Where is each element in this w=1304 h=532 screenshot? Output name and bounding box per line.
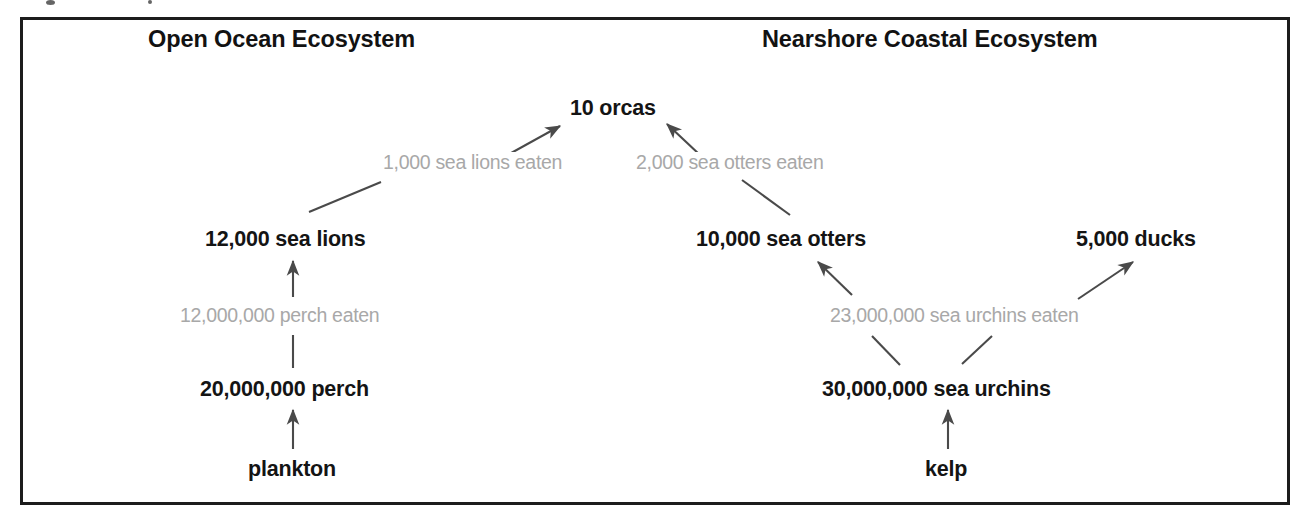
node-ducks: 5,000 ducks (1076, 229, 1196, 251)
node-sea-urchins: 30,000,000 sea urchins (822, 379, 1051, 401)
clipped-caption-remnant (46, 0, 55, 5)
flow-label-sea-otters-eaten: 2,000 sea otters eaten (632, 152, 827, 174)
diagram-page: Open Ocean Ecosystem Nearshore Coastal E… (0, 0, 1304, 532)
diagram-frame (20, 17, 1290, 505)
node-sea-otters: 10,000 sea otters (696, 229, 866, 251)
node-orcas: 10 orcas (570, 98, 656, 120)
clipped-caption-remnant (148, 0, 152, 4)
node-sea-lions: 12,000 sea lions (205, 229, 366, 251)
node-kelp: kelp (925, 459, 967, 481)
flow-label-perch-eaten: 12,000,000 perch eaten (176, 305, 383, 327)
heading-open-ocean-ecosystem: Open Ocean Ecosystem (148, 28, 415, 52)
heading-nearshore-coastal-ecosystem: Nearshore Coastal Ecosystem (762, 28, 1098, 52)
flow-label-sea-urchins-eaten: 23,000,000 sea urchins eaten (826, 305, 1083, 327)
node-plankton: plankton (248, 459, 336, 481)
flow-label-sea-lions-eaten: 1,000 sea lions eaten (379, 152, 566, 174)
node-perch: 20,000,000 perch (200, 379, 369, 401)
